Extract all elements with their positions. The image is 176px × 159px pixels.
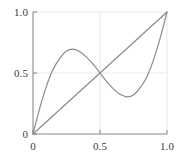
y-tick-label: 1.0 (14, 7, 28, 18)
y-tick-label: 0.5 (14, 68, 28, 79)
y-tick-label: 0 (22, 129, 28, 140)
chart-figure: 00.51.0 00.51.0 (0, 0, 176, 159)
x-tick-label: 1.0 (160, 141, 174, 152)
x-tick-label: 0.5 (93, 141, 107, 152)
x-tick-label: 0 (30, 141, 36, 152)
